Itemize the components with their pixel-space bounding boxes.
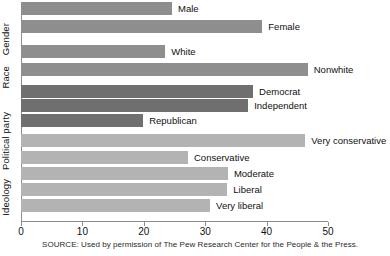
bar-label-male: Male: [178, 2, 199, 15]
x-tick-label-20: 20: [138, 226, 149, 237]
bar-label-very-conservative: Very conservative: [311, 134, 386, 147]
group-label-political-party: Political party: [0, 85, 14, 127]
bar-label-liberal: Liberal: [233, 183, 262, 196]
x-tick-label-50: 50: [322, 226, 333, 237]
x-tick-label-40: 40: [261, 226, 272, 237]
group-label-race: Race: [0, 45, 14, 76]
bar-label-female: Female: [268, 20, 300, 33]
bar-conservative: [21, 151, 188, 164]
group-label-text: Ideology: [0, 179, 11, 216]
source-note: SOURCE: Used by permission of The Pew Re…: [42, 240, 358, 249]
x-tick-label-10: 10: [77, 226, 88, 237]
bar-female: [21, 20, 262, 33]
bar-label-nonwhite: Nonwhite: [314, 63, 354, 76]
bar-independent: [21, 99, 248, 112]
bar-very-liberal: [21, 199, 210, 212]
bar-republican: [21, 114, 143, 127]
group-label-ideology: Ideology: [0, 134, 14, 212]
bar-label-very-liberal: Very liberal: [216, 199, 263, 212]
x-tick-label-30: 30: [200, 226, 211, 237]
bar-democrat: [21, 85, 253, 98]
group-label-gender: Gender: [0, 2, 14, 33]
bar-label-conservative: Conservative: [194, 151, 249, 164]
bar-label-independent: Independent: [254, 99, 307, 112]
x-tick-label-0: 0: [18, 226, 24, 237]
bar-chart-figure: GenderRacePolitical partyIdeology MaleFe…: [0, 0, 390, 256]
bar-male: [21, 2, 172, 15]
bar-label-moderate: Moderate: [234, 167, 274, 180]
bar-very-conservative: [21, 134, 305, 147]
bar-label-white: White: [171, 45, 195, 58]
bar-label-republican: Republican: [149, 114, 197, 127]
bar-moderate: [21, 167, 228, 180]
bar-white: [21, 45, 165, 58]
bar-nonwhite: [21, 63, 308, 76]
x-axis-line: [21, 221, 328, 222]
bar-label-democrat: Democrat: [259, 85, 300, 98]
bar-liberal: [21, 183, 227, 196]
